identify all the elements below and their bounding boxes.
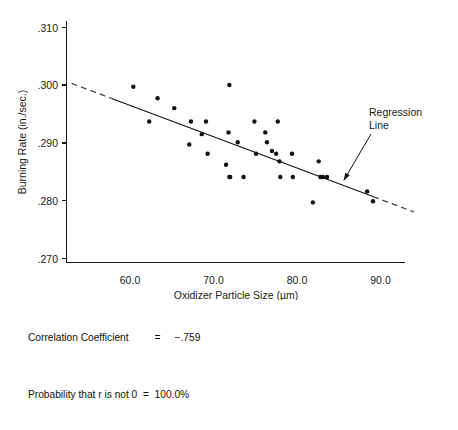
data-point (311, 200, 315, 204)
y-tick-label: .300 (38, 79, 59, 91)
data-point (172, 106, 176, 110)
annotation-leader-line (344, 134, 371, 180)
data-point (276, 119, 280, 123)
correlation-coefficient-line: Correlation Coefficient=−.759 (28, 331, 448, 345)
probability-line: Probability that r is not 0 = 100.0% (28, 388, 448, 402)
data-point (321, 175, 325, 179)
statistics-text-block: Correlation Coefficient=−.759 Probabilit… (28, 303, 448, 430)
data-point (205, 152, 209, 156)
data-point (317, 159, 321, 163)
annotation-arrow-head (344, 173, 350, 181)
data-point (278, 175, 282, 179)
data-point (291, 175, 295, 179)
data-point (155, 96, 159, 100)
data-point (147, 119, 151, 123)
data-point (187, 142, 191, 146)
data-point (252, 119, 256, 123)
data-point (131, 85, 135, 89)
scatter-plot-figure: .310 .300 .290 .280 .270 60.0 70.0 80.0 … (0, 0, 458, 430)
y-axis-title: Burning Rate (in./sec.) (16, 90, 28, 194)
data-point (226, 130, 230, 134)
y-tick-label: .290 (38, 137, 59, 149)
chart-canvas: .310 .300 .290 .280 .270 60.0 70.0 80.0 … (0, 0, 458, 300)
x-tick-label: 90.0 (370, 274, 391, 286)
correlation-coefficient-value: −.759 (175, 332, 201, 343)
data-point (325, 175, 329, 179)
data-point (224, 163, 228, 167)
data-point (277, 159, 281, 163)
y-axis-ticks (62, 28, 67, 259)
data-point (270, 149, 274, 153)
data-point (227, 83, 231, 87)
x-tick-labels: 60.0 70.0 80.0 90.0 (120, 274, 391, 286)
data-point (371, 199, 375, 203)
annotation-line2: Line (369, 119, 389, 131)
data-points-group (131, 83, 375, 205)
annotation-line1: Regression (369, 106, 422, 118)
data-point (265, 140, 269, 144)
data-point (236, 140, 240, 144)
y-tick-labels: .310 .300 .290 .280 .270 (38, 22, 59, 265)
data-point (200, 132, 204, 136)
y-tick-label: .280 (38, 195, 59, 207)
data-point (365, 189, 369, 193)
data-point (204, 119, 208, 123)
data-point (228, 175, 232, 179)
data-point (263, 130, 267, 134)
y-tick-label: .270 (38, 253, 59, 265)
correlation-coefficient-label: Correlation Coefficient (28, 332, 129, 343)
x-axis-title: Oxidizer Particle Size (µm) (174, 289, 299, 300)
data-point (274, 152, 278, 156)
regression-line-dashed-right (373, 197, 414, 212)
x-tick-label: 60.0 (120, 274, 141, 286)
data-point (290, 152, 294, 156)
data-point (241, 175, 245, 179)
regression-line-dashed-left (72, 83, 112, 98)
x-tick-label: 70.0 (203, 274, 224, 286)
regression-line-solid (112, 98, 373, 196)
data-point (254, 152, 258, 156)
data-point (189, 119, 193, 123)
y-tick-label: .310 (38, 22, 59, 34)
x-tick-label: 80.0 (287, 274, 308, 286)
regression-line-annotation: Regression Line (344, 106, 423, 180)
correlation-equals: = (155, 332, 161, 343)
